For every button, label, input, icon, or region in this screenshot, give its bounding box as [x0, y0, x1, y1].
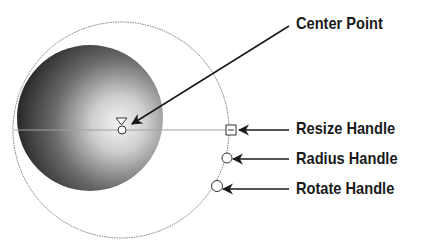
center-point-arrow [132, 26, 289, 124]
rotate-handle-label: Rotate Handle [296, 180, 394, 197]
rotate-handle[interactable] [212, 181, 223, 192]
radius-handle[interactable] [222, 153, 232, 163]
radius-handle-label: Radius Handle [296, 150, 398, 167]
resize-handle-label: Resize Handle [296, 120, 395, 137]
resize-handle[interactable] [226, 125, 236, 135]
center-point-label: Center Point [296, 15, 383, 32]
gradient-tool-diagram: Center Point Resize Handle Radius Handle… [0, 0, 427, 249]
center-circle-icon [118, 126, 126, 134]
